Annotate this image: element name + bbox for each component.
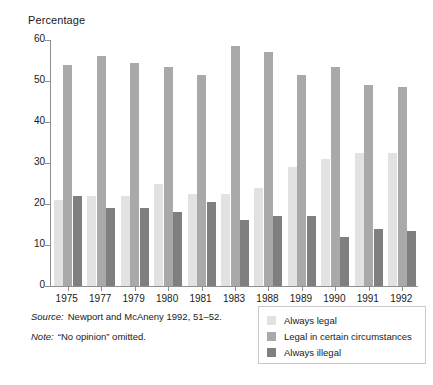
x-tick-mark (335, 287, 336, 291)
y-tick-label: 40 (34, 115, 45, 126)
y-tick-label: 30 (34, 156, 45, 167)
legend-item[interactable]: Always legal (267, 313, 425, 328)
source-text: Newport and McAneny 1992, 51–52. (68, 311, 222, 322)
x-axis-line (50, 286, 418, 287)
y-tick-label: 60 (34, 33, 45, 44)
bar-group (321, 40, 349, 286)
bar (331, 67, 340, 286)
x-tick-mark (68, 287, 69, 291)
x-tick-mark (369, 287, 370, 291)
y-tick-mark (45, 286, 50, 287)
x-tick-mark (101, 287, 102, 291)
bar (54, 200, 63, 286)
x-axis-label: 1991 (350, 293, 386, 304)
bar-group (355, 40, 383, 286)
x-tick-mark (135, 287, 136, 291)
bar (221, 194, 230, 286)
x-axis-label: 1979 (116, 293, 152, 304)
legend-item[interactable]: Legal in certain circumstances (267, 329, 425, 344)
bar (240, 220, 249, 286)
bar (130, 63, 139, 286)
bar (63, 65, 72, 286)
legend-label: Always illegal (284, 347, 341, 358)
bar (87, 196, 96, 286)
bar (73, 196, 82, 286)
bar (321, 159, 330, 286)
legend-label: Legal in certain circumstances (284, 331, 412, 342)
legend-swatch-icon (267, 316, 276, 325)
bar (140, 208, 149, 286)
x-axis-label: 1980 (149, 293, 185, 304)
legend-item[interactable]: Always illegal (267, 345, 425, 360)
y-axis-line (50, 40, 51, 287)
figure: Percentage 0102030405060 197519771979198… (0, 0, 433, 385)
y-tick-mark (45, 163, 50, 164)
bar (398, 87, 407, 286)
bar (340, 237, 349, 286)
y-tick-mark (45, 204, 50, 205)
source-note: Source:Newport and McAneny 1992, 51–52. (31, 307, 222, 327)
figure-notes: Source:Newport and McAneny 1992, 51–52. … (31, 307, 222, 347)
note-text: “No opinion” omitted. (58, 331, 146, 342)
bar-group (154, 40, 182, 286)
y-tick-label: 10 (34, 238, 45, 249)
y-axis-title: Percentage (28, 14, 85, 26)
x-axis-label: 1988 (249, 293, 285, 304)
bar-group (188, 40, 216, 286)
x-tick-mark (202, 287, 203, 291)
bar (207, 202, 216, 286)
x-tick-mark (402, 287, 403, 291)
chart-legend: Always legalLegal in certain circumstanc… (258, 306, 426, 364)
bar-group (288, 40, 316, 286)
x-tick-mark (302, 287, 303, 291)
bar (106, 208, 115, 286)
x-axis-label: 1992 (383, 293, 419, 304)
bar (288, 167, 297, 286)
bar-group (388, 40, 416, 286)
y-tick-label: 0 (39, 279, 45, 290)
bar (231, 46, 240, 286)
y-tick-mark (45, 245, 50, 246)
bar (273, 216, 282, 286)
bar (355, 153, 364, 286)
source-label: Source: (31, 311, 64, 322)
bar-group (121, 40, 149, 286)
omitted-note: Note:“No opinion” omitted. (31, 327, 222, 347)
x-axis-label: 1990 (316, 293, 352, 304)
x-tick-mark (168, 287, 169, 291)
bar-group (254, 40, 282, 286)
plot-area: 0102030405060 19751977197919801981198319… (50, 40, 418, 287)
x-axis-label: 1975 (49, 293, 85, 304)
x-tick-mark (268, 287, 269, 291)
bar-group (87, 40, 115, 286)
x-axis-label: 1989 (283, 293, 319, 304)
bar-group (54, 40, 82, 286)
y-tick-label: 20 (34, 197, 45, 208)
y-tick-label: 50 (34, 74, 45, 85)
bar (407, 231, 416, 286)
bar (97, 56, 106, 286)
x-axis-label: 1983 (216, 293, 252, 304)
bar-group (221, 40, 249, 286)
bar (388, 153, 397, 286)
bar (307, 216, 316, 286)
legend-swatch-icon (267, 348, 276, 357)
bar (188, 194, 197, 286)
bar (364, 85, 373, 286)
bar (197, 75, 206, 286)
bar (297, 75, 306, 286)
y-tick-mark (45, 81, 50, 82)
x-tick-mark (235, 287, 236, 291)
legend-label: Always legal (284, 315, 337, 326)
bar (121, 196, 130, 286)
bar (254, 188, 263, 286)
bar (154, 184, 163, 287)
note-label: Note: (31, 331, 54, 342)
x-axis-label: 1981 (183, 293, 219, 304)
bar (164, 67, 173, 286)
bar (374, 229, 383, 286)
y-tick-mark (45, 40, 50, 41)
x-axis-label: 1977 (82, 293, 118, 304)
legend-swatch-icon (267, 332, 276, 341)
bar (173, 212, 182, 286)
